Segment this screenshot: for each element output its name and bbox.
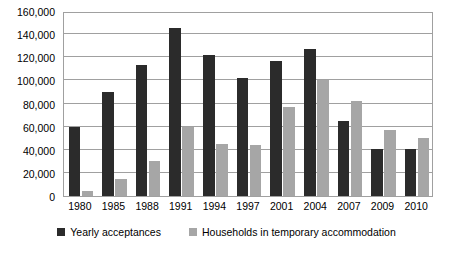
bar-group xyxy=(333,13,367,196)
bar xyxy=(317,80,329,196)
bar xyxy=(136,65,148,196)
x-tick-label: 1980 xyxy=(63,200,97,212)
bars-layer xyxy=(64,13,432,196)
legend-label: Households in temporary accommodation xyxy=(202,226,396,238)
x-tick-label: 1997 xyxy=(231,200,265,212)
bar xyxy=(405,149,417,196)
bar-group xyxy=(232,13,266,196)
legend-label: Yearly acceptances xyxy=(70,226,161,238)
bar xyxy=(351,101,363,196)
legend-swatch-icon xyxy=(57,228,65,236)
bar-group xyxy=(98,13,132,196)
y-tick-label: 140,000 xyxy=(17,30,55,40)
legend-item: Yearly acceptances xyxy=(57,226,161,238)
bar xyxy=(182,127,194,196)
x-tick-label: 2010 xyxy=(399,200,433,212)
chart-legend: Yearly acceptancesHouseholds in temporar… xyxy=(0,226,453,238)
bar-group xyxy=(400,13,434,196)
bar xyxy=(304,49,316,196)
x-tick-label: 1994 xyxy=(198,200,232,212)
x-axis: 1980198519881991199419972001200420072009… xyxy=(63,200,433,218)
bar xyxy=(115,179,127,196)
bar xyxy=(102,92,114,196)
y-tick-label: 120,000 xyxy=(17,53,55,63)
plot-area xyxy=(63,12,433,197)
bar-chart: 160,000140,000120,000100,00080,00060,000… xyxy=(0,0,453,261)
x-tick-label: 2001 xyxy=(265,200,299,212)
x-tick-label: 2007 xyxy=(332,200,366,212)
y-tick-label: 60,000 xyxy=(23,123,55,133)
bar xyxy=(338,121,350,196)
bar-group xyxy=(131,13,165,196)
y-tick-label: 80,000 xyxy=(23,100,55,110)
bar-group xyxy=(266,13,300,196)
bar xyxy=(371,149,383,196)
y-tick-label: 160,000 xyxy=(17,7,55,17)
bar xyxy=(69,127,81,196)
x-tick-label: 2009 xyxy=(366,200,400,212)
bar xyxy=(149,161,161,196)
bar xyxy=(283,107,295,196)
bar xyxy=(169,28,181,196)
bar xyxy=(270,61,282,196)
y-tick-label: 40,000 xyxy=(23,146,55,156)
bar xyxy=(237,78,249,196)
bar-group xyxy=(64,13,98,196)
bar xyxy=(384,130,396,196)
bar-group xyxy=(367,13,401,196)
bar xyxy=(250,145,262,196)
legend-item: Households in temporary accommodation xyxy=(189,226,396,238)
x-tick-label: 1991 xyxy=(164,200,198,212)
bar xyxy=(418,138,430,196)
bar-group xyxy=(199,13,233,196)
bar xyxy=(82,191,94,196)
y-tick-label: 100,000 xyxy=(17,76,55,86)
bar-group xyxy=(165,13,199,196)
bar xyxy=(216,144,228,196)
y-tick-label: 0 xyxy=(49,192,55,202)
bar xyxy=(203,55,215,196)
x-tick-label: 2004 xyxy=(298,200,332,212)
x-tick-label: 1988 xyxy=(130,200,164,212)
legend-swatch-icon xyxy=(189,228,197,236)
x-tick-label: 1985 xyxy=(97,200,131,212)
y-axis: 160,000140,000120,000100,00080,00060,000… xyxy=(0,0,59,205)
bar-group xyxy=(299,13,333,196)
y-tick-label: 20,000 xyxy=(23,169,55,179)
